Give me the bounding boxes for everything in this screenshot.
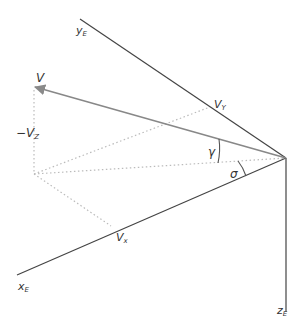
- vector-label: V: [36, 71, 45, 85]
- vy-label: VY: [214, 98, 227, 112]
- sigma-angle-arc: [238, 161, 246, 176]
- vx-label: Vx: [116, 231, 129, 245]
- construction-lines: [34, 90, 286, 226]
- velocity-vector-arrow: [35, 87, 286, 158]
- diagram-svg: yE xE zE V −VZ VY Vx γ σ: [0, 0, 303, 328]
- diagram-canvas: yE xE zE V −VZ VY Vx γ σ: [0, 0, 303, 328]
- y-axis-label: yE: [75, 24, 88, 38]
- vz-label: −VZ: [16, 126, 39, 141]
- vy-dotted-line: [34, 107, 210, 174]
- gamma-angle-arc: [218, 139, 220, 163]
- gamma-label: γ: [208, 145, 216, 159]
- x-axis-label: xE: [17, 280, 30, 294]
- vx-dotted-line: [34, 174, 111, 226]
- y-axis-line: [80, 19, 286, 158]
- sigma-label: σ: [230, 167, 238, 181]
- horizontal-projection-line: [34, 158, 286, 174]
